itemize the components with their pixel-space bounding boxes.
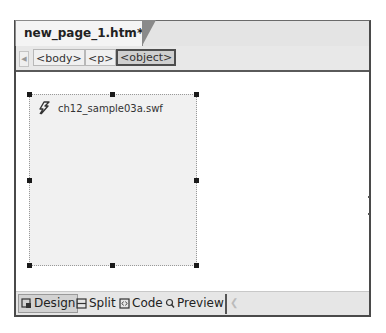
- tag-p[interactable]: <p>: [85, 49, 116, 66]
- swf-label: ch12_sample03a.swf: [36, 100, 163, 116]
- code-icon: [119, 298, 130, 309]
- design-canvas[interactable]: ch12_sample03a.swf: [16, 72, 369, 291]
- resize-handle-ne[interactable]: [194, 92, 199, 97]
- tag-scroll-left-icon[interactable]: ◀: [19, 51, 29, 67]
- preview-view-button[interactable]: Preview: [164, 294, 224, 313]
- swf-filename: ch12_sample03a.swf: [58, 103, 163, 114]
- flash-icon: [36, 100, 52, 116]
- resize-handle-sw[interactable]: [27, 263, 32, 268]
- resize-handle-w[interactable]: [27, 178, 32, 183]
- magnifier-icon: [164, 298, 175, 309]
- split-icon: [76, 298, 87, 309]
- split-view-button[interactable]: Split: [76, 294, 116, 313]
- tag-body[interactable]: <body>: [33, 49, 85, 66]
- document-tab-bar: new_page_1.htm*: [16, 21, 369, 47]
- split-label: Split: [89, 294, 116, 313]
- quick-tag-selector: ◀ <body> <p> <object>: [16, 46, 369, 72]
- view-mode-bar: Design Split Code Preview ❮: [16, 291, 369, 315]
- tag-object[interactable]: <object>: [116, 49, 176, 66]
- edge-marker: [368, 196, 370, 198]
- resize-handle-se[interactable]: [194, 263, 199, 268]
- swf-object-placeholder[interactable]: ch12_sample03a.swf: [29, 94, 197, 266]
- document-tab[interactable]: new_page_1.htm*: [15, 20, 143, 46]
- edge-marker: [368, 213, 370, 215]
- resize-handle-nw[interactable]: [27, 92, 32, 97]
- design-label: Design: [34, 294, 75, 313]
- preview-label: Preview: [177, 294, 224, 313]
- design-view-button[interactable]: Design: [18, 294, 78, 313]
- resize-handle-n[interactable]: [110, 92, 115, 97]
- divider: [225, 294, 227, 314]
- code-view-button[interactable]: Code: [119, 294, 163, 313]
- resize-handle-e[interactable]: [194, 178, 199, 183]
- code-label: Code: [132, 294, 163, 313]
- resize-handle-s[interactable]: [110, 263, 115, 268]
- editor-window: new_page_1.htm* ◀ <body> <p> <object> ch…: [14, 20, 371, 317]
- scroll-left-icon[interactable]: ❮: [230, 297, 238, 308]
- design-icon: [21, 298, 32, 309]
